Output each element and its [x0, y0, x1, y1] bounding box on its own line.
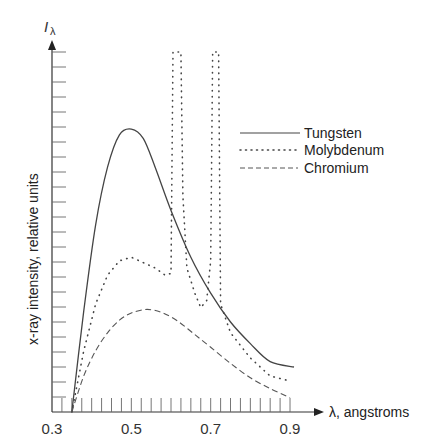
curve-molybdenum	[72, 52, 290, 412]
legend: Tungsten Molybdenum Chromium	[240, 125, 384, 176]
x-tick-label: 0.5	[121, 420, 142, 437]
legend-label-chromium: Chromium	[304, 160, 369, 176]
y-axis-label: x-ray intensity, relative units	[25, 173, 41, 345]
x-tick-label: 0.9	[280, 420, 301, 437]
x-tick-label: 0.7	[200, 420, 221, 437]
y-axis-arrow-icon	[48, 40, 56, 50]
legend-label-molybdenum: Molybdenum	[304, 142, 384, 158]
x-tick-label: 0.3	[42, 420, 63, 437]
y-axis-symbol: I	[44, 18, 48, 35]
legend-label-tungsten: Tungsten	[304, 125, 362, 141]
xray-spectrum-chart: 0.30.50.70.9 Tungsten Molybdenum Chromiu…	[0, 0, 440, 447]
x-axis-arrow-icon	[314, 408, 324, 416]
x-axis-label: λ, angstroms	[329, 404, 409, 420]
curve-chromium	[72, 309, 290, 412]
curve-tungsten	[72, 129, 294, 412]
y-axis-symbol-subscript: λ	[50, 25, 56, 37]
curves	[72, 52, 294, 412]
